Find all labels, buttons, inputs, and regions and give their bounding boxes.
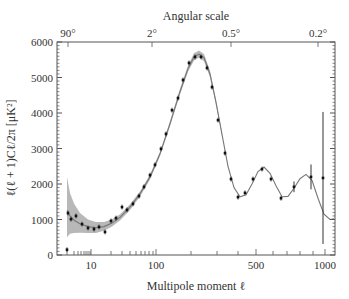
top-tick-label: 90° <box>60 27 75 39</box>
y-tick-label: 2000 <box>31 178 54 190</box>
data-point <box>230 178 233 181</box>
y-tick-label: 4000 <box>31 107 54 119</box>
data-point <box>252 178 255 181</box>
y-tick-label: 3000 <box>31 143 54 155</box>
data-point <box>200 56 203 59</box>
data-point <box>177 97 180 100</box>
data-point <box>237 196 240 199</box>
variance-band-area <box>67 51 222 238</box>
data-point <box>280 197 283 200</box>
model-curve <box>67 54 334 228</box>
data-point <box>87 227 90 230</box>
model-line <box>67 54 334 228</box>
data-point <box>211 86 214 89</box>
data-point <box>67 212 70 215</box>
data-point <box>194 56 197 59</box>
data-point <box>217 119 220 122</box>
data-point <box>206 67 209 70</box>
y-tick-label: 1000 <box>31 214 54 226</box>
data-point <box>154 164 157 167</box>
data-point <box>160 148 163 151</box>
data-point <box>98 226 101 229</box>
x-tick-label: 500 <box>248 259 265 271</box>
data-point <box>322 177 325 180</box>
data-point <box>66 248 69 251</box>
data-point <box>143 186 146 189</box>
y-axis-title: ℓ(ℓ + 1)Cℓ/2π [μK²] <box>4 99 18 196</box>
x-axis-title: Multipole moment ℓ <box>147 279 246 293</box>
top-tick-label: 0.2° <box>309 27 327 39</box>
power-spectrum-chart: Angular scale Multipole moment ℓ ℓ(ℓ + 1… <box>0 0 349 299</box>
tick-labels: 010002000300040005000600010100500100090°… <box>31 27 337 271</box>
top-tick-label: 0.5° <box>222 27 240 39</box>
top-axis-title: Angular scale <box>163 9 229 23</box>
data-point <box>293 186 296 189</box>
data-point <box>75 215 78 218</box>
data-point <box>188 62 191 65</box>
data-point <box>110 220 113 223</box>
data-point <box>224 152 227 155</box>
y-tick-label: 5000 <box>31 72 54 84</box>
data-point <box>115 217 118 220</box>
cosmic-variance-band <box>67 51 222 238</box>
data-point <box>149 174 152 177</box>
data-point <box>93 228 96 231</box>
data-point <box>261 168 264 171</box>
data-point <box>121 206 124 209</box>
data-point <box>138 195 141 198</box>
data-point <box>70 218 73 221</box>
x-tick-label: 100 <box>148 259 165 271</box>
top-tick-label: 2° <box>147 27 157 39</box>
x-tick-label: 10 <box>86 259 98 271</box>
data-point <box>132 203 135 206</box>
x-tick-label: 1000 <box>314 259 337 271</box>
data-point <box>310 176 313 179</box>
y-tick-label: 0 <box>48 249 54 261</box>
data-point <box>171 109 174 112</box>
data-point <box>126 209 129 212</box>
y-tick-label: 6000 <box>31 36 54 48</box>
data-point <box>270 178 273 181</box>
data-point <box>104 231 107 234</box>
data-point <box>182 79 185 82</box>
data-point <box>81 223 84 226</box>
data-point <box>165 133 168 136</box>
data-point <box>244 192 247 195</box>
